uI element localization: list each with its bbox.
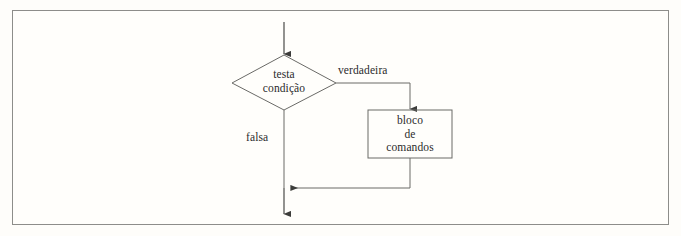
decision-label: testa condição — [232, 68, 336, 95]
figure-caption — [0, 228, 681, 236]
figure-page: testa condição bloco de comandos verdade… — [0, 0, 681, 236]
decision-label-line2: condição — [232, 82, 336, 96]
process-label-line2: de — [368, 128, 452, 142]
false-branch-label: falsa — [246, 131, 268, 145]
true-branch-line — [336, 83, 410, 109]
true-branch-label: verdadeira — [338, 64, 388, 78]
process-label-line1: bloco — [368, 114, 452, 128]
decision-label-line1: testa — [232, 68, 336, 82]
process-label: bloco de comandos — [368, 114, 452, 155]
flowchart-canvas — [0, 0, 681, 236]
process-label-line3: comandos — [368, 141, 452, 155]
loop-back-line — [291, 158, 410, 188]
